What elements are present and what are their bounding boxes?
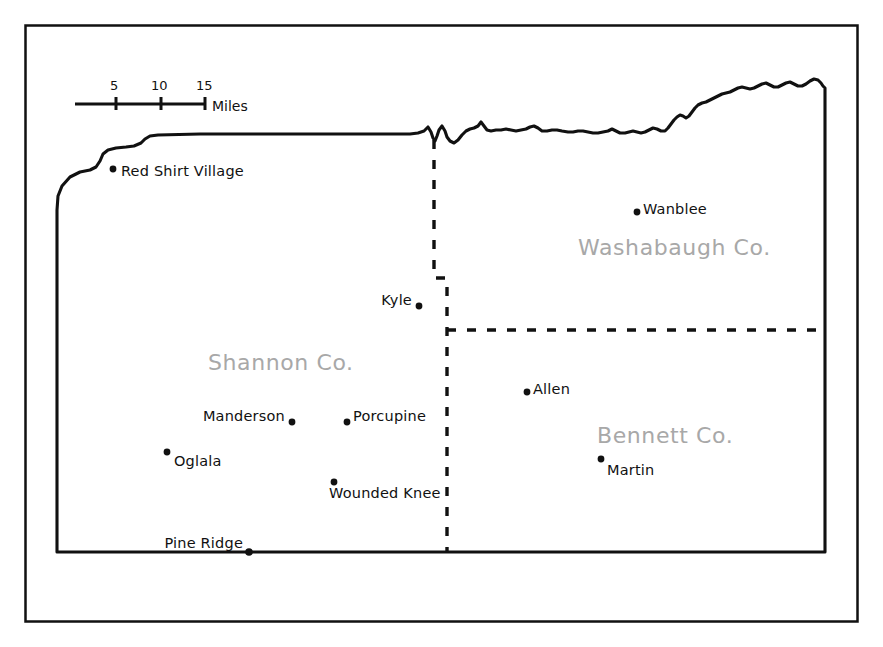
scale-bar — [75, 97, 205, 110]
town-dot-porcupine[interactable] — [344, 419, 351, 426]
county-label-washabaugh: Washabaugh Co. — [578, 235, 771, 260]
place-label-allen: Allen — [533, 381, 570, 397]
place-label-porcupine: Porcupine — [353, 408, 426, 424]
place-label-kyle: Kyle — [381, 292, 412, 308]
town-dot-manderson[interactable] — [289, 419, 296, 426]
town-dot-red-shirt-village[interactable] — [110, 166, 117, 173]
outer-frame — [26, 26, 858, 622]
town-dot-kyle[interactable] — [416, 303, 423, 310]
town-dot-martin[interactable] — [598, 456, 605, 463]
place-label-martin: Martin — [607, 462, 654, 478]
scale-tick-label-15: 15 — [196, 78, 213, 93]
county-label-bennett: Bennett Co. — [597, 423, 733, 448]
scale-tick-label-10: 10 — [151, 78, 168, 93]
reservation-boundary — [57, 79, 825, 552]
place-label-wounded-knee: Wounded Knee — [329, 485, 441, 501]
scale-bar-unit-label: Miles — [212, 98, 248, 114]
county-label-shannon: Shannon Co. — [208, 350, 354, 375]
town-dot-pine-ridge[interactable] — [245, 548, 253, 556]
map-canvas: 5 10 15 Miles Shannon Co. Washabaugh Co.… — [0, 0, 883, 647]
town-dot-oglala[interactable] — [164, 449, 171, 456]
town-dot-allen[interactable] — [524, 389, 531, 396]
map-vector-layer — [0, 0, 883, 647]
place-label-wanblee: Wanblee — [643, 201, 707, 217]
place-label-pine-ridge: Pine Ridge — [164, 535, 243, 551]
town-dot-wanblee[interactable] — [634, 209, 641, 216]
place-label-oglala: Oglala — [174, 453, 222, 469]
scale-tick-label-5: 5 — [110, 78, 118, 93]
place-label-red-shirt-village: Red Shirt Village — [121, 163, 244, 179]
place-label-manderson: Manderson — [203, 408, 285, 424]
